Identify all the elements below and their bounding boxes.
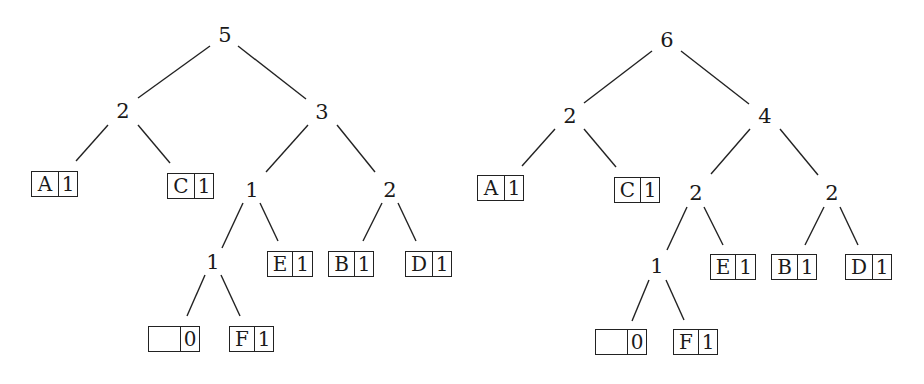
leaf-count: 1: [505, 176, 523, 200]
internal-node-weight: 2: [820, 181, 844, 205]
leaf-count: 1: [355, 252, 373, 276]
leaf-count: 0: [628, 330, 646, 354]
tree-edge: [337, 125, 375, 172]
leaf-symbol: D: [406, 252, 433, 276]
internal-node-weight: 6: [655, 28, 679, 52]
internal-node-weight: 1: [201, 250, 225, 274]
leaf-node-a: A1: [477, 175, 524, 201]
leaf-count: 1: [195, 174, 213, 198]
tree-edge: [704, 207, 723, 245]
leaf-node-d: D1: [405, 251, 452, 277]
internal-node-weight: 5: [213, 23, 237, 47]
leaf-node-e: E1: [710, 254, 756, 280]
internal-node-weight: 2: [378, 178, 402, 202]
tree-edge: [76, 125, 108, 161]
tree-edge: [584, 129, 616, 167]
leaf-count: 1: [433, 252, 451, 276]
leaf-count: 1: [736, 255, 755, 279]
leaf-node-b: B1: [328, 251, 374, 277]
tree-edge: [805, 207, 824, 245]
tree-edge: [681, 51, 749, 104]
leaf-count: 1: [641, 178, 659, 202]
leaf-node-empty: 0: [148, 326, 200, 352]
leaf-symbol: F: [230, 327, 255, 351]
leaf-symbol: E: [711, 255, 736, 279]
tree-edge: [260, 203, 278, 241]
leaf-node-f: F1: [229, 326, 274, 352]
leaf-node-c: C1: [614, 177, 660, 203]
leaf-count: 1: [798, 255, 816, 279]
internal-node-weight: 2: [111, 99, 135, 123]
leaf-symbol: A: [32, 172, 59, 196]
leaf-symbol: F: [674, 330, 699, 354]
tree-edge: [711, 129, 750, 174]
tree-edge: [666, 280, 684, 320]
leaf-count: 0: [181, 327, 199, 351]
tree-edge: [138, 46, 210, 98]
tree-edge: [238, 46, 306, 99]
leaf-node-c: C1: [167, 173, 214, 199]
leaf-symbol: B: [772, 255, 798, 279]
tree-edge: [222, 203, 243, 248]
internal-node-weight: 4: [753, 104, 777, 128]
tree-edge: [221, 275, 240, 316]
leaf-symbol: A: [478, 176, 505, 200]
leaf-symbol: [149, 327, 181, 351]
leaf-node-empty: 0: [595, 329, 647, 355]
leaf-node-d: D1: [845, 254, 892, 280]
leaf-count: 1: [293, 252, 312, 276]
leaf-symbol: [596, 330, 628, 354]
internal-node-weight: 1: [240, 178, 264, 202]
tree-edge: [584, 51, 652, 103]
leaf-count: 1: [59, 172, 77, 196]
leaf-node-a: A1: [31, 171, 78, 197]
leaf-symbol: D: [846, 255, 873, 279]
leaf-node-e: E1: [267, 251, 313, 277]
leaf-node-f: F1: [673, 329, 718, 355]
leaf-symbol: C: [615, 178, 641, 202]
leaf-count: 1: [873, 255, 891, 279]
leaf-symbol: E: [268, 252, 293, 276]
tree-edge: [840, 207, 858, 245]
internal-node-weight: 2: [558, 104, 582, 128]
leaf-symbol: B: [329, 252, 355, 276]
tree-edge: [632, 280, 649, 321]
leaf-node-b: B1: [771, 254, 817, 280]
tree-edge: [187, 275, 205, 316]
tree-edge: [522, 129, 555, 166]
leaf-count: 1: [699, 330, 717, 354]
tree-edge: [363, 203, 382, 241]
leaf-count: 1: [255, 327, 273, 351]
internal-node-weight: 2: [684, 181, 708, 205]
tree-edge: [138, 125, 170, 163]
tree-edge: [780, 129, 818, 175]
tree-edge: [667, 207, 687, 250]
tree-edge: [266, 125, 308, 172]
tree-edges: [0, 0, 924, 384]
internal-node-weight: 3: [310, 100, 334, 124]
internal-node-weight: 1: [645, 254, 669, 278]
leaf-symbol: C: [168, 174, 195, 198]
tree-edge: [398, 203, 416, 241]
